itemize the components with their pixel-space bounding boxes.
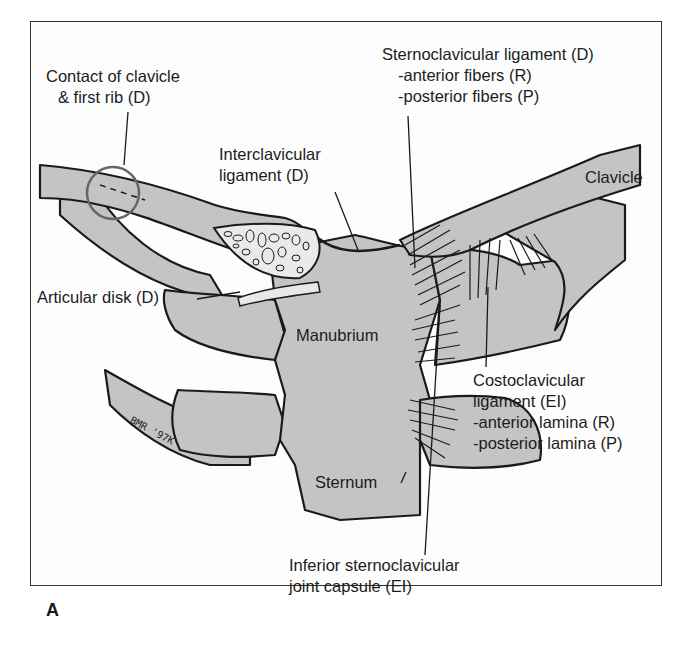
label-line: ligament (EI) <box>473 391 622 412</box>
label-line: -posterior lamina (P) <box>473 433 622 454</box>
panel-letter: A <box>46 600 59 621</box>
label-line: Contact of clavicle <box>46 66 180 87</box>
leader-contact <box>124 112 128 165</box>
label-line: ligament (D) <box>219 165 321 186</box>
label-interclavicular-ligament: Interclavicular ligament (D) <box>219 144 321 186</box>
label-line: Costoclavicular <box>473 370 622 391</box>
label-line: Interclavicular <box>219 144 321 165</box>
label-sternum: Sternum <box>315 472 377 493</box>
label-line: -posterior fibers (P) <box>382 86 594 107</box>
label-line: -anterior fibers (R) <box>382 65 594 86</box>
label-manubrium: Manubrium <box>296 325 379 346</box>
label-articular-disk: Articular disk (D) <box>37 287 159 308</box>
label-inferior-capsule: Inferior sternoclavicular joint capsule … <box>289 555 460 597</box>
left-costal-cartilage-2 <box>172 390 285 457</box>
label-sternoclavicular-ligament: Sternoclavicular ligament (D) -anterior … <box>382 44 594 107</box>
label-line: -anterior lamina (R) <box>473 412 622 433</box>
label-line: Sternoclavicular ligament (D) <box>382 44 594 65</box>
label-contact-clavicle-first-rib: Contact of clavicle & first rib (D) <box>46 66 180 108</box>
label-line: Inferior sternoclavicular <box>289 555 460 576</box>
label-costoclavicular-ligament: Costoclavicular ligament (EI) -anterior … <box>473 370 622 454</box>
label-line: & first rib (D) <box>46 87 180 108</box>
label-clavicle: Clavicle <box>585 167 643 188</box>
label-line: joint capsule (EI) <box>289 576 460 597</box>
